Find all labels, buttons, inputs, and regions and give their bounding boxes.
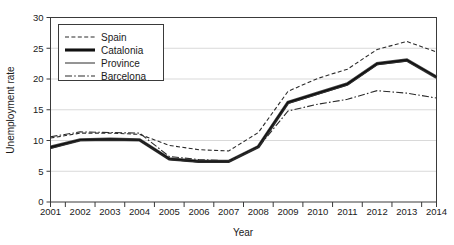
x-tick-label: 2013 [396,206,417,217]
x-tick-label: 2011 [337,206,357,217]
y-tick-label: 30 [33,12,44,23]
x-tick-label: 2007 [218,206,239,217]
legend-label-province: Province [101,58,140,69]
x-tick-label: 2002 [70,206,91,217]
y-tick-label: 10 [33,135,44,146]
x-tick-label: 2006 [188,206,209,217]
x-tick-label: 2012 [367,206,388,217]
y-tick-label: 20 [33,73,44,84]
x-tick-label: 2014 [426,206,447,217]
y-tick-label: 5 [38,166,43,177]
x-tick-label: 2001 [40,206,61,217]
x-tick-label: 2010 [307,206,328,217]
legend-label-catalonia: Catalonia [101,45,144,56]
x-axis-title: Year [233,227,254,238]
y-tick-label: 25 [33,43,44,54]
x-tick-label: 2004 [129,206,150,217]
chart-container: 051015202530 200120022003200420052006200… [0,0,454,245]
y-tick-label: 15 [33,104,44,115]
x-tick-label: 2003 [99,206,120,217]
x-tick-label: 2009 [277,206,298,217]
x-tick-label: 2008 [248,206,269,217]
y-axis-title: Unemployment rate [5,66,16,154]
x-tick-label: 2005 [159,206,180,217]
line-chart: 051015202530 200120022003200420052006200… [0,0,454,245]
legend-label-spain: Spain [101,32,127,43]
chart-legend: SpainCataloniaProvinceBarcelona [59,25,164,82]
legend-label-barcelona: Barcelona [101,71,146,82]
